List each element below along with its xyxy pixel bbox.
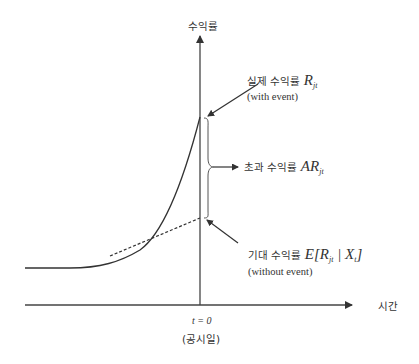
expected-return-label: 기대 수익률 E[Rjt | Xt] bbox=[248, 246, 362, 264]
event-study-diagram bbox=[0, 0, 419, 364]
abnormal-return-brace bbox=[204, 118, 214, 218]
event-time-label: t = 0 bbox=[192, 315, 212, 326]
actual-return-note: (with event) bbox=[247, 91, 298, 102]
expected-return-pointer-arrow bbox=[207, 220, 238, 243]
abnormal-return-math: ARjt bbox=[301, 158, 324, 174]
x-axis-label: 시간 bbox=[378, 298, 398, 313]
actual-return-curve bbox=[25, 117, 200, 268]
event-time-sublabel: (공시일) bbox=[182, 331, 220, 346]
expected-return-title: 기대 수익률 bbox=[248, 249, 301, 261]
expected-return-note: (without event) bbox=[248, 266, 312, 277]
expected-return-math: E[Rjt | Xt] bbox=[305, 246, 363, 262]
y-axis-label: 수익률 bbox=[188, 18, 218, 33]
actual-return-math: Rjt bbox=[304, 72, 318, 88]
expected-return-dashed-line bbox=[110, 218, 200, 256]
actual-return-title: 실제 수익률 bbox=[247, 75, 300, 87]
actual-return-label: 실제 수익률 Rjt bbox=[247, 72, 317, 90]
abnormal-return-label: 초과 수익률 ARjt bbox=[244, 158, 324, 176]
abnormal-return-title: 초과 수익률 bbox=[244, 161, 297, 173]
